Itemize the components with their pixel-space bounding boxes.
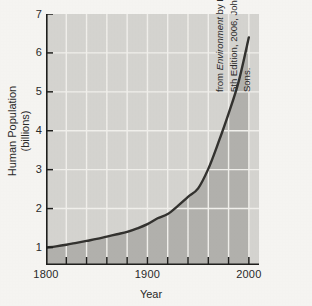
- attribution-suffix: by Raven and Berg,: [214, 0, 225, 17]
- x-axis-tick-labels: 180019002000: [0, 268, 312, 284]
- x-axis-title: Year: [0, 288, 302, 300]
- x-axis-tick-label: 2000: [236, 268, 261, 280]
- y-axis-tick-label: 3: [20, 164, 42, 175]
- population-growth-figure: Human Population (billions) 7654321: [0, 0, 312, 306]
- attribution-line-3: Sons.: [240, 0, 254, 92]
- source-attribution: from Environment by Raven and Berg, 5th …: [213, 0, 254, 92]
- y-axis-tick-label: 2: [20, 203, 42, 214]
- y-axis-tick-labels: 7654321: [12, 14, 42, 265]
- y-axis-tick-label: 6: [20, 47, 42, 58]
- x-axis-tick-label: 1900: [135, 268, 160, 280]
- y-axis-tick-label: 7: [20, 9, 42, 20]
- y-axis-tick-label: 4: [20, 125, 42, 136]
- y-axis-tick-label: 1: [20, 242, 42, 253]
- y-axis-tick-label: 5: [20, 86, 42, 97]
- attribution-book-title: Environment: [214, 17, 225, 70]
- x-axis-tick-label: 1800: [33, 268, 58, 280]
- attribution-line-2: 5th Edition, 2006, John Wiley and: [227, 0, 241, 92]
- attribution-prefix: from: [214, 70, 225, 92]
- attribution-line-1: from Environment by Raven and Berg,: [213, 0, 227, 92]
